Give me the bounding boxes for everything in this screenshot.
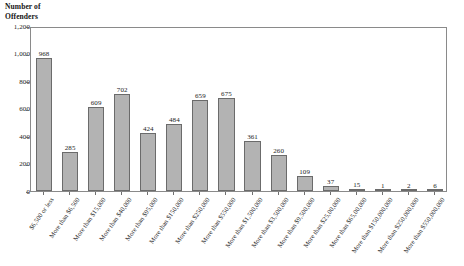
bar xyxy=(218,98,234,191)
y-axis-title: Number of Offenders xyxy=(5,2,41,21)
y-tick-mark xyxy=(26,110,29,111)
x-tick-mark xyxy=(434,192,435,195)
bar xyxy=(297,176,313,191)
bar-value-label: 37 xyxy=(318,179,344,186)
x-tick-mark xyxy=(304,192,305,195)
bar-value-label: 6 xyxy=(422,183,448,190)
bar-value-label: 361 xyxy=(240,134,266,141)
x-tick-mark xyxy=(408,192,409,195)
x-tick-mark xyxy=(69,192,70,195)
x-tick-mark xyxy=(43,192,44,195)
bar-value-label: 484 xyxy=(161,117,187,124)
bar xyxy=(36,58,52,191)
bar-value-label: 1 xyxy=(370,183,396,190)
bar-value-label: 260 xyxy=(266,148,292,155)
bar-value-label: 968 xyxy=(31,51,57,58)
bar xyxy=(166,124,182,191)
bar-value-label: 659 xyxy=(187,93,213,100)
x-tick-mark xyxy=(356,192,357,195)
bar xyxy=(244,141,260,191)
x-tick-mark xyxy=(95,192,96,195)
bar-value-label: 609 xyxy=(83,100,109,107)
y-tick-mark xyxy=(26,27,29,28)
x-tick-mark xyxy=(199,192,200,195)
bar-value-label: 702 xyxy=(109,87,135,94)
y-tick-mark xyxy=(26,55,29,56)
y-tick-mark xyxy=(26,137,29,138)
bar xyxy=(114,94,130,191)
bar-chart: Number of Offenders 02004006008001,0001,… xyxy=(0,0,464,266)
x-tick-mark xyxy=(252,192,253,195)
bar-value-label: 15 xyxy=(344,182,370,189)
bar xyxy=(323,186,339,191)
x-tick-mark xyxy=(225,192,226,195)
x-tick-mark xyxy=(173,192,174,195)
x-tick-mark xyxy=(121,192,122,195)
bar xyxy=(88,107,104,191)
x-tick-label: $6,500 or less xyxy=(28,196,55,231)
bar xyxy=(349,189,365,191)
bar-value-label: 285 xyxy=(57,145,83,152)
plot-area: 9682856097024244846596753612601093715126 xyxy=(30,27,447,192)
x-tick-mark xyxy=(147,192,148,195)
x-tick-mark xyxy=(330,192,331,195)
bar xyxy=(62,152,78,191)
bar xyxy=(192,100,208,191)
y-tick-mark xyxy=(26,165,29,166)
y-axis: 02004006008001,0001,200 xyxy=(0,27,30,192)
bar-value-label: 2 xyxy=(396,183,422,190)
x-tick-mark xyxy=(382,192,383,195)
bar xyxy=(271,155,287,191)
plot-inner: 9682856097024244846596753612601093715126 xyxy=(31,28,446,191)
bar-value-label: 109 xyxy=(292,169,318,176)
bar-value-label: 675 xyxy=(213,91,239,98)
x-tick-mark xyxy=(278,192,279,195)
y-tick-mark xyxy=(26,192,29,193)
bar-value-label: 424 xyxy=(135,126,161,133)
y-tick-mark xyxy=(26,82,29,83)
bar xyxy=(140,133,156,191)
